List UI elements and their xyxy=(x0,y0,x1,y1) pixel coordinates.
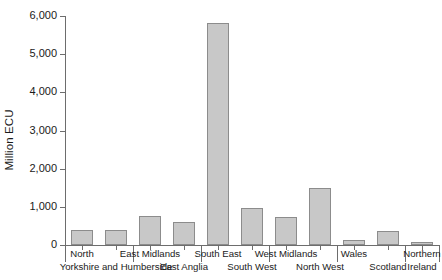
y-tick-label: 6,000 xyxy=(29,9,57,22)
x-tick-minor xyxy=(252,245,253,250)
x-axis-label: East Midlands xyxy=(120,248,180,260)
x-axis-label: South West xyxy=(227,261,276,273)
y-axis-line xyxy=(65,16,66,245)
y-tick-4000: 4,000 xyxy=(60,92,65,93)
x-axis-label: South East xyxy=(195,248,242,260)
bar-chart: Million ECU 01,0002,0003,0004,0005,0006,… xyxy=(0,0,442,280)
x-group-divider xyxy=(337,245,338,262)
y-tick-3000: 3,000 xyxy=(60,131,65,132)
y-tick-label: 1,000 xyxy=(29,200,57,213)
plot-area: 01,0002,0003,0004,0005,0006,000 xyxy=(65,16,439,245)
x-axis-label: Northern xyxy=(403,248,440,260)
x-axis-label: Wales xyxy=(341,248,367,260)
x-axis-label: Yorkshire and Humberside xyxy=(60,261,173,273)
x-axis-label: Scotland xyxy=(369,261,406,273)
y-tick-2000: 2,000 xyxy=(60,169,65,170)
y-tick-1000: 1,000 xyxy=(60,207,65,208)
y-tick-label: 5,000 xyxy=(29,47,57,60)
x-tick-minor xyxy=(320,245,321,250)
bar xyxy=(139,216,161,245)
y-axis-title: Million ECU xyxy=(0,0,18,280)
x-axis-label: West Midlands xyxy=(255,248,318,260)
x-axis-label: East Anglia xyxy=(160,261,208,273)
x-axis-label: North West xyxy=(296,261,344,273)
y-tick-6000: 6,000 xyxy=(60,16,65,17)
bar xyxy=(241,208,263,245)
bar xyxy=(105,230,127,245)
x-tick-minor xyxy=(184,245,185,250)
y-tick-label: 0 xyxy=(51,238,57,251)
x-tick-minor xyxy=(116,245,117,250)
x-axis-label: North xyxy=(70,248,93,260)
y-tick-5000: 5,000 xyxy=(60,54,65,55)
y-tick-label: 2,000 xyxy=(29,162,57,175)
bar xyxy=(275,217,297,245)
x-group-divider xyxy=(65,245,66,262)
y-tick-label: 4,000 xyxy=(29,85,57,98)
y-tick-label: 3,000 xyxy=(29,124,57,137)
x-axis-label: Ireland xyxy=(407,261,436,273)
bar xyxy=(207,23,229,245)
x-tick-minor xyxy=(388,245,389,250)
bar xyxy=(71,230,93,245)
bar xyxy=(309,188,331,245)
bar xyxy=(377,231,399,245)
bar xyxy=(173,222,195,245)
